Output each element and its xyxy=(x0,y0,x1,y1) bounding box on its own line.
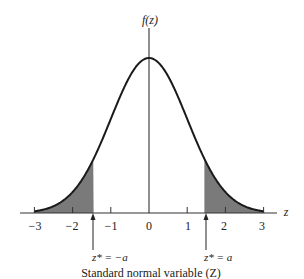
x-axis-label: z xyxy=(283,205,289,219)
tick-label-1: 1 xyxy=(185,219,191,233)
left-tail-shading xyxy=(34,160,93,213)
tick-label-neg1: −1 xyxy=(105,219,118,233)
right-tail-shading xyxy=(204,159,263,213)
caption: Standard normal variable (Z) xyxy=(81,266,221,279)
x-tick-labels: −3 −2 −1 0 1 2 3 xyxy=(29,219,265,233)
tick-label-neg2: −2 xyxy=(66,219,79,233)
y-axis-label: f(z) xyxy=(142,13,158,27)
left-marker-label: z* = −a xyxy=(91,251,128,263)
tick-label-2: 2 xyxy=(221,219,227,233)
left-critical-arrow xyxy=(91,213,96,250)
tick-label-0: 0 xyxy=(146,219,152,233)
tick-label-neg3: −3 xyxy=(29,219,42,233)
right-critical-arrow xyxy=(204,213,209,250)
normal-distribution-diagram: −3 −2 −1 0 1 2 3 f(z) z z* = −a z* = a S… xyxy=(0,0,304,279)
tick-label-3: 3 xyxy=(259,219,265,233)
right-marker-label: z* = a xyxy=(203,251,233,263)
